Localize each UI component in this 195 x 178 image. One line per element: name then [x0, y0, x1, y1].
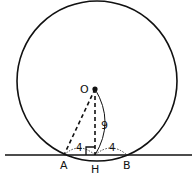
label-A: A: [60, 159, 68, 172]
label-HB-length: 4: [109, 142, 115, 153]
label-O: O: [80, 83, 89, 96]
label-AH-length: 4: [76, 142, 82, 153]
label-H: H: [91, 163, 99, 176]
right-angle-marker: [86, 147, 95, 155]
label-B: B: [123, 159, 131, 172]
circle: [17, 1, 177, 161]
circle-chord-diagram: O 9 4 4 A H B: [0, 0, 195, 178]
label-OH-length: 9: [101, 119, 108, 132]
center-point-O: [92, 86, 97, 91]
